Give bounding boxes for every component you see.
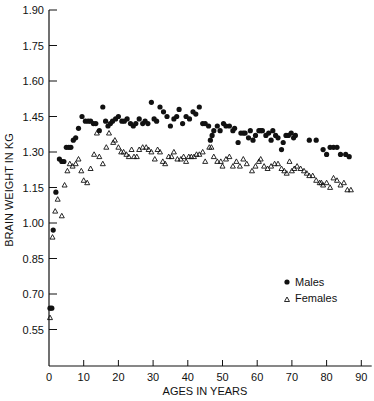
male-data-point: [93, 121, 98, 126]
male-data-point: [211, 128, 216, 133]
male-data-point: [253, 133, 258, 138]
male-data-point: [49, 306, 54, 311]
female-data-point: [53, 209, 58, 214]
female-data-point: [169, 154, 174, 159]
female-data-point: [203, 159, 208, 164]
male-data-point: [79, 114, 84, 119]
male-data-point: [270, 128, 275, 133]
female-data-point: [116, 145, 121, 150]
female-data-point: [258, 157, 263, 162]
female-data-point: [100, 161, 105, 166]
male-data-point: [338, 152, 343, 157]
female-data-point: [97, 154, 102, 159]
female-data-point: [59, 213, 64, 218]
female-data-point: [107, 131, 112, 136]
female-data-point: [104, 145, 109, 150]
female-data-point: [152, 157, 157, 162]
male-data-point: [218, 128, 223, 133]
y-tick-label: 1.15: [23, 182, 44, 194]
male-data-point: [279, 147, 284, 152]
male-data-point: [243, 131, 248, 136]
x-tick-label: 10: [78, 371, 90, 383]
legend-male-marker-icon: [284, 279, 289, 284]
male-data-point: [193, 112, 198, 117]
male-data-point: [161, 109, 166, 114]
male-data-point: [197, 104, 202, 109]
female-data-point: [129, 147, 134, 152]
legend-label-males: Males: [295, 276, 325, 288]
female-data-point: [341, 180, 346, 185]
female-data-point: [331, 175, 336, 180]
y-axis: 1.901.751.601.451.301.151.000.850.700.55: [23, 4, 57, 366]
x-tick-label: 70: [286, 371, 298, 383]
male-data-point: [116, 114, 121, 119]
male-data-point: [236, 140, 241, 145]
female-data-point: [253, 164, 258, 169]
male-data-point: [334, 145, 339, 150]
female-data-point: [65, 168, 70, 173]
female-data-point: [230, 164, 235, 169]
y-tick-label: 0.70: [23, 288, 44, 300]
female-data-point: [314, 178, 319, 183]
x-tick-label: 0: [46, 371, 52, 383]
male-data-point: [321, 147, 326, 152]
male-data-point: [51, 228, 56, 233]
male-data-point: [347, 154, 352, 159]
female-data-point: [227, 154, 232, 159]
x-tick-label: 30: [147, 371, 159, 383]
male-data-point: [293, 133, 298, 138]
male-data-point: [68, 145, 73, 150]
male-data-point: [250, 138, 255, 143]
female-data-point: [287, 159, 292, 164]
male-data-point: [269, 138, 274, 143]
x-tick-label: 80: [320, 371, 332, 383]
female-data-point: [134, 154, 139, 159]
male-data-point: [168, 123, 173, 128]
female-data-point: [324, 180, 329, 185]
male-data-point: [149, 100, 154, 105]
female-data-point: [79, 168, 84, 173]
female-data-point: [55, 197, 60, 202]
y-axis-label: BRAIN WEIGHT IN KG: [3, 133, 15, 246]
male-data-point: [248, 128, 253, 133]
female-data-point: [200, 149, 205, 154]
male-data-point: [208, 138, 213, 143]
male-data-point: [174, 114, 179, 119]
x-tick-label: 90: [355, 371, 367, 383]
brain-weight-scatter-chart: 1.901.751.601.451.301.151.000.850.700.55…: [0, 0, 374, 401]
male-data-point: [260, 128, 265, 133]
male-data-point: [133, 121, 138, 126]
male-data-point: [177, 107, 182, 112]
female-data-point: [81, 178, 86, 183]
female-data-point: [250, 168, 255, 173]
male-data-point: [157, 104, 162, 109]
male-data-point: [210, 133, 215, 138]
legend-label-females: Females: [295, 292, 338, 304]
female-data-point: [348, 187, 353, 192]
male-data-point: [100, 104, 105, 109]
female-data-point: [112, 138, 117, 143]
female-data-point: [88, 166, 93, 171]
female-data-point: [244, 161, 249, 166]
female-data-point: [218, 159, 223, 164]
male-data-point: [61, 159, 66, 164]
male-data-point: [281, 140, 286, 145]
x-tick-label: 60: [251, 371, 263, 383]
male-data-point: [73, 135, 78, 140]
male-data-point: [125, 116, 130, 121]
female-data-point: [171, 149, 176, 154]
y-tick-label: 0.85: [23, 253, 44, 265]
male-data-point: [145, 121, 150, 126]
x-tick-label: 50: [216, 371, 228, 383]
male-data-point: [154, 119, 159, 124]
male-data-point: [206, 123, 211, 128]
male-data-point: [275, 135, 280, 140]
male-data-point: [187, 116, 192, 121]
male-data-point: [53, 190, 58, 195]
male-data-point: [232, 126, 237, 131]
x-tick-label: 20: [112, 371, 124, 383]
x-axis-label: AGES IN YEARS: [163, 385, 248, 397]
female-data-point: [73, 161, 78, 166]
female-data-point: [62, 183, 67, 188]
y-tick-label: 1.90: [23, 4, 44, 16]
